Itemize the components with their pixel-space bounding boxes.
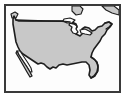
map-title: Map of the contiguous United States [0, 0, 1, 1]
us-map-graphic[interactable] [6, 6, 119, 91]
map-thumbnail[interactable]: Map of the contiguous United States [0, 0, 128, 103]
map-border [4, 4, 121, 93]
